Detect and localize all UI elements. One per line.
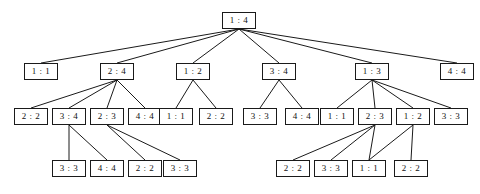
tree-edge: [31, 80, 117, 108]
tree-node-label: 1 : 1: [32, 67, 51, 76]
tree-edge: [337, 80, 372, 108]
tree-node: 2 : 2: [394, 160, 428, 177]
tree-node-label: 3 : 4: [270, 67, 289, 76]
tree-node-label: 1 : 1: [167, 112, 186, 121]
tree-node-label: 4 : 4: [293, 112, 312, 121]
tree-edge: [279, 80, 302, 108]
tree-edge: [193, 29, 239, 63]
tree-node: 2 : 2: [14, 108, 48, 125]
tree-node-label: 2 : 2: [22, 112, 41, 121]
tree-node-label: 4 : 4: [98, 164, 117, 173]
tree-node: 1 : 3: [355, 63, 389, 80]
tree-node: 4 : 4: [285, 108, 319, 125]
tree-node: 3 : 3: [52, 160, 86, 177]
tree-node-label: 1 : 1: [328, 112, 347, 121]
tree-node: 3 : 4: [52, 108, 86, 125]
tree-node-label: 4 : 4: [448, 67, 467, 76]
tree-node-label: 3 : 3: [251, 112, 270, 121]
tree-edge: [239, 29, 372, 63]
tree-node: 2 : 3: [358, 108, 392, 125]
tree-edge: [372, 80, 375, 108]
tree-node: 2 : 2: [128, 160, 162, 177]
tree-node: 1 : 1: [159, 108, 193, 125]
tree-edge: [107, 125, 145, 160]
game-tree-diagram: 1 : 41 : 12 : 41 : 23 : 41 : 34 : 42 : 2…: [0, 0, 480, 194]
tree-edge: [372, 80, 451, 108]
tree-node: 1 : 2: [396, 108, 430, 125]
tree-node: 2 : 2: [276, 160, 310, 177]
tree-edge: [372, 80, 413, 108]
tree-edge: [117, 80, 145, 108]
tree-node: 1 : 1: [352, 160, 386, 177]
tree-node-label: 2 : 2: [284, 164, 303, 173]
tree-node-label: 2 : 3: [366, 112, 385, 121]
tree-node: 4 : 4: [90, 160, 124, 177]
tree-node: 2 : 3: [90, 108, 124, 125]
tree-node-label: 2 : 4: [108, 67, 127, 76]
tree-edge: [293, 125, 375, 160]
tree-edge: [193, 80, 216, 108]
tree-node-label: 1 : 2: [404, 112, 423, 121]
tree-node-label: 2 : 3: [98, 112, 117, 121]
tree-node: 3 : 3: [314, 160, 348, 177]
tree-node-label: 3 : 3: [171, 164, 190, 173]
tree-node-label: 2 : 2: [207, 112, 226, 121]
tree-node: 3 : 4: [262, 63, 296, 80]
tree-edge: [411, 125, 413, 160]
tree-edge: [107, 125, 180, 160]
tree-node: 1 : 1: [24, 63, 58, 80]
tree-edge: [117, 29, 239, 63]
tree-node-label: 2 : 2: [136, 164, 155, 173]
tree-edge: [41, 29, 239, 63]
tree-edge: [176, 80, 193, 108]
tree-node-label: 1 : 4: [230, 16, 249, 25]
tree-node-label: 2 : 2: [402, 164, 421, 173]
tree-node-label: 3 : 3: [322, 164, 341, 173]
tree-node-label: 1 : 2: [184, 67, 203, 76]
tree-node-label: 1 : 3: [363, 67, 382, 76]
tree-edge: [107, 80, 117, 108]
tree-edge: [69, 80, 117, 108]
tree-node: 4 : 4: [128, 108, 162, 125]
tree-node: 2 : 2: [199, 108, 233, 125]
tree-node: 2 : 4: [100, 63, 134, 80]
tree-node: 3 : 3: [163, 160, 197, 177]
tree-node: 4 : 4: [440, 63, 474, 80]
tree-node-label: 4 : 4: [136, 112, 155, 121]
tree-node: 3 : 3: [243, 108, 277, 125]
tree-node-label: 3 : 3: [442, 112, 461, 121]
tree-edge: [260, 80, 279, 108]
tree-edge: [239, 29, 279, 63]
tree-node-label: 3 : 3: [60, 164, 79, 173]
tree-edge: [369, 125, 413, 160]
tree-node: 1 : 4: [222, 12, 256, 29]
tree-edge: [331, 125, 375, 160]
tree-edge: [69, 125, 107, 160]
tree-node-label: 3 : 4: [60, 112, 79, 121]
tree-node-label: 1 : 1: [360, 164, 379, 173]
tree-edge: [239, 29, 457, 63]
tree-node: 1 : 2: [176, 63, 210, 80]
tree-edge: [369, 125, 375, 160]
tree-node: 3 : 3: [434, 108, 468, 125]
tree-node: 1 : 1: [320, 108, 354, 125]
